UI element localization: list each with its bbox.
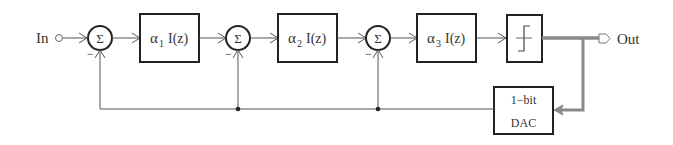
- alpha-subscript: 3: [436, 38, 441, 49]
- sigma-symbol: Σ: [234, 31, 242, 46]
- quantizer-block: [507, 15, 542, 62]
- junction-dot: [376, 107, 381, 112]
- sigma-symbol: Σ: [374, 31, 382, 46]
- sigma-delta-diagram: In Σ − α 1 I(z) Σ − α 2 I(z) Σ −: [0, 0, 673, 145]
- sigma-symbol: Σ: [96, 31, 104, 46]
- alpha-symbol: α: [150, 30, 158, 46]
- minus-sign: −: [87, 47, 94, 61]
- dac-label-line1: 1−bit: [511, 93, 537, 107]
- alpha-subscript: 2: [297, 38, 302, 49]
- input-terminal-icon: [56, 35, 63, 42]
- integrator-block-2: α 2 I(z): [278, 14, 337, 62]
- junction-dot: [236, 107, 241, 112]
- integrator-block-1: α 1 I(z): [140, 14, 199, 62]
- minus-sign: −: [225, 47, 232, 61]
- transfer-function: I(z): [306, 31, 327, 47]
- minus-sign: −: [365, 47, 372, 61]
- output-terminal-icon: [599, 34, 610, 43]
- transfer-function: I(z): [445, 31, 466, 47]
- transfer-function: I(z): [168, 31, 189, 47]
- integrator-block-3: α 3 I(z): [417, 14, 476, 62]
- feedback-wire-to-dac: [560, 38, 583, 110]
- alpha-subscript: 1: [159, 38, 164, 49]
- dac-block: 1−bit DAC: [494, 87, 553, 134]
- output-label: Out: [617, 31, 640, 47]
- alpha-symbol: α: [427, 30, 435, 46]
- dac-label-line2: DAC: [511, 116, 536, 130]
- input-label: In: [36, 30, 49, 46]
- alpha-symbol: α: [288, 30, 296, 46]
